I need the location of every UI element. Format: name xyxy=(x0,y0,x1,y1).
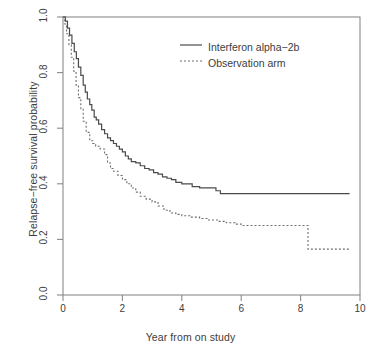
survival-curve-observation xyxy=(63,17,350,249)
x-tick-label: 6 xyxy=(226,303,256,314)
x-tick-label: 8 xyxy=(286,303,316,314)
survival-curves xyxy=(63,17,350,249)
x-axis-title: Year from on study xyxy=(0,331,381,343)
y-axis-ticks xyxy=(57,17,63,295)
survival-chart-figure: Year from on study Relapse−free survival… xyxy=(0,0,381,356)
y-tick-label: 0.0 xyxy=(38,279,49,309)
legend-label-interferon: Interferon alpha−2b xyxy=(208,41,299,53)
x-tick-label: 10 xyxy=(345,303,375,314)
survival-curve-interferon xyxy=(63,17,350,194)
y-tick-label: 0.6 xyxy=(38,112,49,142)
legend-label-observation: Observation arm xyxy=(208,57,286,69)
y-tick-label: 0.8 xyxy=(38,56,49,86)
x-tick-label: 2 xyxy=(107,303,137,314)
y-tick-label: 1.0 xyxy=(38,1,49,31)
x-tick-label: 4 xyxy=(167,303,197,314)
x-tick-label: 0 xyxy=(48,303,78,314)
y-tick-label: 0.2 xyxy=(38,223,49,253)
y-tick-label: 0.4 xyxy=(38,167,49,197)
x-axis-ticks xyxy=(63,295,360,301)
legend-line-samples xyxy=(180,45,202,61)
